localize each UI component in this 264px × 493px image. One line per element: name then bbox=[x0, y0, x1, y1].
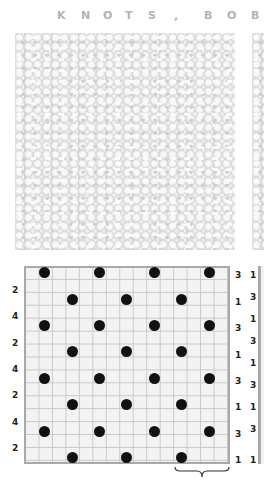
row-number-label: 3 bbox=[235, 376, 241, 386]
title-letter: B bbox=[204, 9, 212, 22]
bobble-symbol bbox=[149, 320, 160, 331]
bobble-symbol bbox=[39, 373, 50, 384]
row-number-label: 1 bbox=[235, 297, 241, 307]
title-letter: O bbox=[103, 9, 112, 22]
bobble-symbol bbox=[39, 426, 50, 437]
row-number-label: 3 bbox=[250, 292, 256, 302]
bobble-symbol bbox=[149, 373, 160, 384]
bobble-symbol bbox=[94, 373, 105, 384]
swatch-photo bbox=[15, 33, 235, 250]
row-number-label: 1 bbox=[250, 314, 256, 324]
row-number-label: 1 bbox=[235, 455, 241, 465]
bobble-symbol bbox=[204, 320, 215, 331]
bobble-symbol bbox=[149, 426, 160, 437]
row-number-label: 1 bbox=[250, 402, 256, 412]
title-letter: , bbox=[174, 9, 178, 22]
row-number-label: 1 bbox=[235, 350, 241, 360]
row-number-label: 3 bbox=[250, 336, 256, 346]
bobble-symbol bbox=[67, 452, 78, 463]
bobble-symbol bbox=[176, 294, 187, 305]
next-swatch-photo bbox=[252, 33, 264, 250]
bobble-symbol bbox=[204, 426, 215, 437]
bobble-symbol bbox=[94, 320, 105, 331]
row-number-label: 2 bbox=[12, 443, 18, 453]
row-number-label: 1 bbox=[250, 358, 256, 368]
repeat-brace-icon bbox=[174, 466, 230, 480]
row-number-label: 1 bbox=[250, 270, 256, 280]
title-letter: N bbox=[81, 9, 90, 22]
side-stitch-chart bbox=[258, 266, 264, 464]
row-number-label: 2 bbox=[12, 285, 18, 295]
row-number-label: 1 bbox=[250, 455, 256, 465]
row-number-label: 1 bbox=[235, 402, 241, 412]
title-letter: O bbox=[227, 9, 236, 22]
bobble-symbol bbox=[204, 373, 215, 384]
bobble-symbol bbox=[67, 346, 78, 357]
page-title: KNOTS,BOB bbox=[0, 9, 264, 25]
row-number-label: 4 bbox=[12, 364, 18, 374]
bobble-symbol bbox=[94, 426, 105, 437]
row-number-label: 3 bbox=[235, 429, 241, 439]
bobble-symbol bbox=[121, 294, 132, 305]
row-number-label: 3 bbox=[250, 424, 256, 434]
bobble-symbol bbox=[67, 294, 78, 305]
bobble-symbol bbox=[204, 267, 215, 278]
row-number-label: 2 bbox=[12, 338, 18, 348]
row-number-label: 3 bbox=[235, 270, 241, 280]
bobble-symbol bbox=[149, 267, 160, 278]
title-letter: S bbox=[148, 9, 156, 22]
row-number-label: 4 bbox=[12, 311, 18, 321]
row-number-label: 4 bbox=[12, 417, 18, 427]
row-number-label: 3 bbox=[235, 323, 241, 333]
row-number-label: 2 bbox=[12, 390, 18, 400]
title-letter: K bbox=[57, 9, 66, 22]
title-letter: T bbox=[125, 9, 133, 22]
title-letter: B bbox=[251, 9, 259, 22]
row-number-label: 3 bbox=[250, 380, 256, 390]
bobble-symbol bbox=[39, 320, 50, 331]
bobble-symbol bbox=[67, 399, 78, 410]
